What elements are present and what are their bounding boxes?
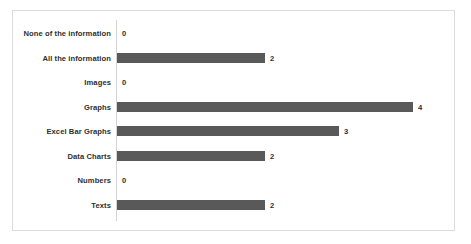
category-label: None of the information [13,29,111,38]
bar[interactable] [117,102,413,112]
category-label: Excel Bar Graphs [13,127,111,136]
bar-row: Numbers0 [13,168,454,193]
bar-track: 4 [117,95,454,120]
category-label: Texts [13,200,111,209]
bar-track: 0 [117,168,454,193]
bar-value-label: 0 [122,176,126,185]
bar-row: All the information2 [13,46,454,71]
bar-row: Texts2 [13,193,454,218]
bar-row: Graphs4 [13,95,454,120]
bar-value-label: 2 [270,151,274,160]
bar-track: 2 [117,46,454,71]
bar-value-label: 2 [270,53,274,62]
bar-track: 3 [117,119,454,144]
bar-row: None of the information0 [13,21,454,46]
bar-track: 2 [117,144,454,169]
bar[interactable] [117,53,265,63]
category-label: Images [13,78,111,87]
bar-value-label: 0 [122,78,126,87]
chart-frame: None of the information0All the informat… [12,10,455,231]
bar[interactable] [117,200,265,210]
plot-area: None of the information0All the informat… [13,11,454,230]
bar-row: Excel Bar Graphs3 [13,119,454,144]
bar-row: Images0 [13,70,454,95]
category-label: All the information [13,53,111,62]
bar-value-label: 0 [122,29,126,38]
bar[interactable] [117,151,265,161]
category-label: Graphs [13,102,111,111]
bar-value-label: 4 [418,102,422,111]
bar-track: 0 [117,21,454,46]
bar-track: 2 [117,193,454,218]
category-label: Data Charts [13,151,111,160]
bar-track: 0 [117,70,454,95]
bar-value-label: 2 [270,200,274,209]
category-label: Numbers [13,176,111,185]
bar[interactable] [117,126,339,136]
bar-row: Data Charts2 [13,144,454,169]
bar-value-label: 3 [344,127,348,136]
